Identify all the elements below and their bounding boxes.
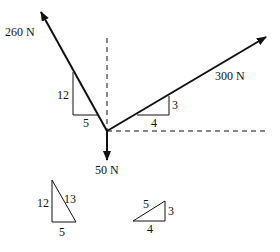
tri-3-4-5-horizontal-label: 4	[147, 222, 153, 236]
force-label-50n: 50 N	[95, 163, 119, 177]
slope-triangle-300n	[137, 96, 169, 115]
slope-300n-horizontal-label: 4	[151, 116, 157, 130]
reference-triangle-3-4-5	[133, 201, 165, 221]
slope-260n-horizontal-label: 5	[83, 116, 89, 130]
slope-300n-vertical-label: 3	[172, 98, 178, 112]
force-arrow-300n	[107, 37, 266, 131]
tri-3-4-5-hypotenuse-label: 5	[143, 197, 149, 211]
force-label-260n: 260 N	[5, 25, 35, 39]
force-diagram: 260 N 300 N 50 N 12 5 3 4 12 13 5 5 3 4	[0, 0, 280, 252]
slope-260n-vertical-label: 12	[57, 88, 69, 102]
force-label-300n: 300 N	[215, 69, 245, 83]
tri-5-12-13-horizontal-label: 5	[59, 225, 65, 239]
force-arrow-260n	[41, 12, 107, 131]
tri-5-12-13-vertical-label: 12	[37, 196, 49, 210]
tri-5-12-13-hypotenuse-label: 13	[64, 192, 76, 206]
tri-3-4-5-vertical-label: 3	[168, 204, 174, 218]
